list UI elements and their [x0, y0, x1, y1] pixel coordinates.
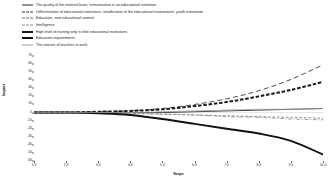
series-line [34, 65, 323, 113]
legend-item[interactable]: Education requirements [22, 35, 322, 42]
y-axis-label: Impact [2, 84, 6, 96]
x-axis-tick-label: 2.0 [64, 164, 69, 167]
x-axis-tick-label: 9.0 [289, 164, 294, 167]
x-axis-tick-mark [98, 161, 99, 163]
x-axis-tick-mark [323, 161, 324, 163]
legend-item-label: Education, new educational content [36, 16, 94, 20]
x-axis-tick-mark [130, 161, 131, 163]
plot-area [34, 56, 323, 161]
x-axis-ticks: 1.02.03.04.05.06.07.08.09.010.0 [34, 161, 323, 171]
legend-item-label: Differentiation of educational instituti… [36, 10, 203, 14]
x-axis-tick-mark [259, 161, 260, 163]
legend-item[interactable]: Intelligence [22, 22, 322, 29]
x-axis-tick-mark [227, 161, 228, 163]
legend-line-icon [22, 35, 33, 41]
x-axis-tick-label: 3.0 [96, 164, 101, 167]
x-axis-tick-mark [34, 161, 35, 163]
series-line [34, 82, 323, 113]
chart-figure: The quality of the material base, remune… [0, 0, 335, 185]
legend-line-icon [22, 22, 33, 28]
legend-item[interactable]: The interest of teachers in work [22, 42, 322, 49]
legend-line-icon [22, 15, 33, 21]
legend-line-icon [22, 2, 33, 8]
x-axis-tick-mark [162, 161, 163, 163]
legend-line-icon [22, 42, 33, 48]
x-axis-tick-label: 1.0 [32, 164, 37, 167]
legend-item-label: Intelligence [36, 23, 55, 27]
chart-legend: The quality of the material base, remune… [22, 2, 322, 48]
legend-item-label: The interest of teachers in work [36, 43, 87, 47]
x-axis-tick-label: 6.0 [192, 164, 197, 167]
legend-line-icon [22, 9, 33, 15]
plot-lines [34, 56, 323, 161]
legend-line-icon [22, 29, 33, 35]
x-axis-tick-label: 4.0 [128, 164, 133, 167]
x-axis-tick-label: 10.0 [320, 164, 327, 167]
x-axis-tick-label: 5.0 [160, 164, 165, 167]
series-line [34, 112, 323, 154]
x-axis-tick-label: 8.0 [256, 164, 261, 167]
legend-item-label: The quality of the material base, remune… [36, 3, 156, 7]
x-axis-tick-mark [66, 161, 67, 163]
legend-item-label: High level of training only in elite edu… [36, 30, 127, 34]
x-axis-tick-mark [291, 161, 292, 163]
legend-item[interactable]: The quality of the material base, remune… [22, 2, 322, 9]
x-axis-tick-label: 7.0 [224, 164, 229, 167]
y-axis-ticks: 706050403020100-10-20-30-40-50-60 [0, 56, 32, 161]
legend-item[interactable]: Education, new educational content [22, 15, 322, 22]
legend-item[interactable]: Differentiation of educational instituti… [22, 9, 322, 16]
x-axis-tick-mark [195, 161, 196, 163]
legend-item[interactable]: High level of training only in elite edu… [22, 28, 322, 35]
legend-item-label: Education requirements [36, 36, 75, 40]
x-axis-label: Steps [34, 172, 323, 176]
